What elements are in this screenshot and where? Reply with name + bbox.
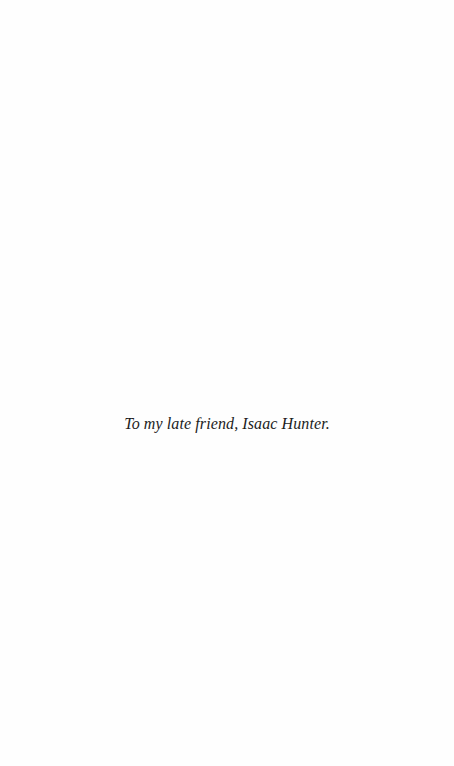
dedication-text: To my late friend, Isaac Hunter.: [0, 414, 454, 434]
book-page: To my late friend, Isaac Hunter.: [0, 0, 454, 766]
